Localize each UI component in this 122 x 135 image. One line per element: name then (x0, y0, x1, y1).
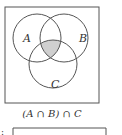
next-item-marker: : (1, 127, 4, 135)
label-c: C (51, 78, 60, 91)
next-item-box (13, 128, 106, 135)
label-b: B (78, 32, 87, 45)
venn-diagram: A B C (A ∩ B) ∩ C : (0, 0, 122, 135)
caption: (A ∩ B) ∩ C (22, 108, 82, 119)
label-a: A (22, 32, 31, 45)
